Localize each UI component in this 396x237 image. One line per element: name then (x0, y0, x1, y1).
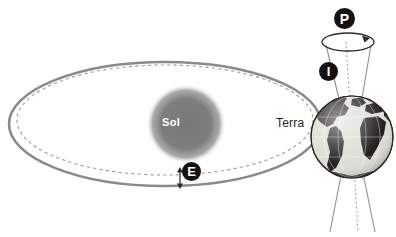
diagram-canvas: Sol Terra P I E (0, 0, 396, 237)
earth-label: Terra (276, 116, 304, 130)
orbit-front-arc (250, 124, 321, 176)
earth-globe (311, 95, 396, 180)
marker-precession-badge: P (334, 8, 355, 29)
sun-label: Sol (162, 116, 180, 128)
precession-circle (322, 33, 374, 51)
sun-body (146, 84, 226, 164)
marker-eccentricity-badge: E (182, 162, 201, 181)
diagram-vector-layer (0, 0, 396, 237)
marker-obliquity-badge: I (319, 62, 338, 81)
